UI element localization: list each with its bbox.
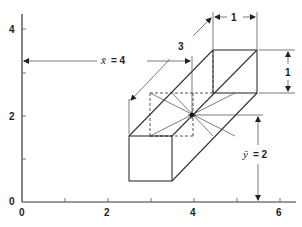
length-dimension: 3	[129, 18, 211, 134]
length-label: 3	[178, 41, 184, 52]
y-bar-symbol: ȳ	[242, 148, 249, 160]
x-tick-label-6: 6	[276, 207, 282, 218]
height-dimension: 1	[259, 50, 295, 93]
front-face	[129, 136, 172, 181]
y-bar-value: = 2	[253, 149, 268, 160]
centroid-diagram: 0 2 4 0 2 4 6 x̄ =	[0, 0, 302, 227]
y-tick-label-4: 4	[9, 24, 15, 35]
x-bar-value: = 4	[111, 55, 126, 66]
y-tick-label-2: 2	[9, 111, 15, 122]
x-tick-label-4: 4	[190, 207, 196, 218]
x-bar-symbol: x̄	[100, 54, 106, 66]
width-label: 1	[231, 12, 237, 23]
y-tick-label-0: 0	[9, 196, 15, 207]
x-tick-label-0: 0	[19, 207, 25, 218]
x-tick-label-2: 2	[104, 207, 110, 218]
axes	[22, 14, 296, 202]
height-label: 1	[285, 67, 291, 78]
width-dimension: 1	[213, 12, 257, 49]
